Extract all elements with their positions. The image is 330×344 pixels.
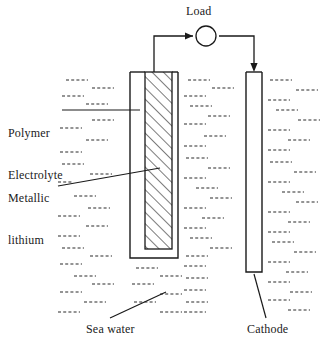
polymer-electrolyte-label-line1: Polymer xyxy=(8,126,63,140)
load-label: Load xyxy=(186,4,211,18)
sea-water-leader-line xyxy=(110,292,166,318)
metallic-lithium-label-line2: lithium xyxy=(8,233,50,247)
cathode-label: Cathode xyxy=(247,322,288,336)
load-symbol-circle xyxy=(196,26,216,46)
current-arrow-to-load xyxy=(185,32,193,39)
battery-diagram-figure: Load Polymer Electrolyte Metallic lithiu… xyxy=(0,0,330,344)
sea-water-dash-field xyxy=(58,80,320,312)
metallic-lithium-label-line1: Metallic xyxy=(8,191,50,205)
metallic-lithium-label: Metallic lithium xyxy=(8,163,50,275)
cathode-lead-wire xyxy=(219,36,254,66)
anode-lead-wire xyxy=(154,36,193,72)
sea-water-label: Sea water xyxy=(86,322,135,336)
metallic-lithium-slab xyxy=(145,72,172,249)
cathode-leader-line xyxy=(254,274,266,318)
current-arrow-to-cathode xyxy=(250,63,257,72)
cathode-electrode xyxy=(246,72,262,272)
